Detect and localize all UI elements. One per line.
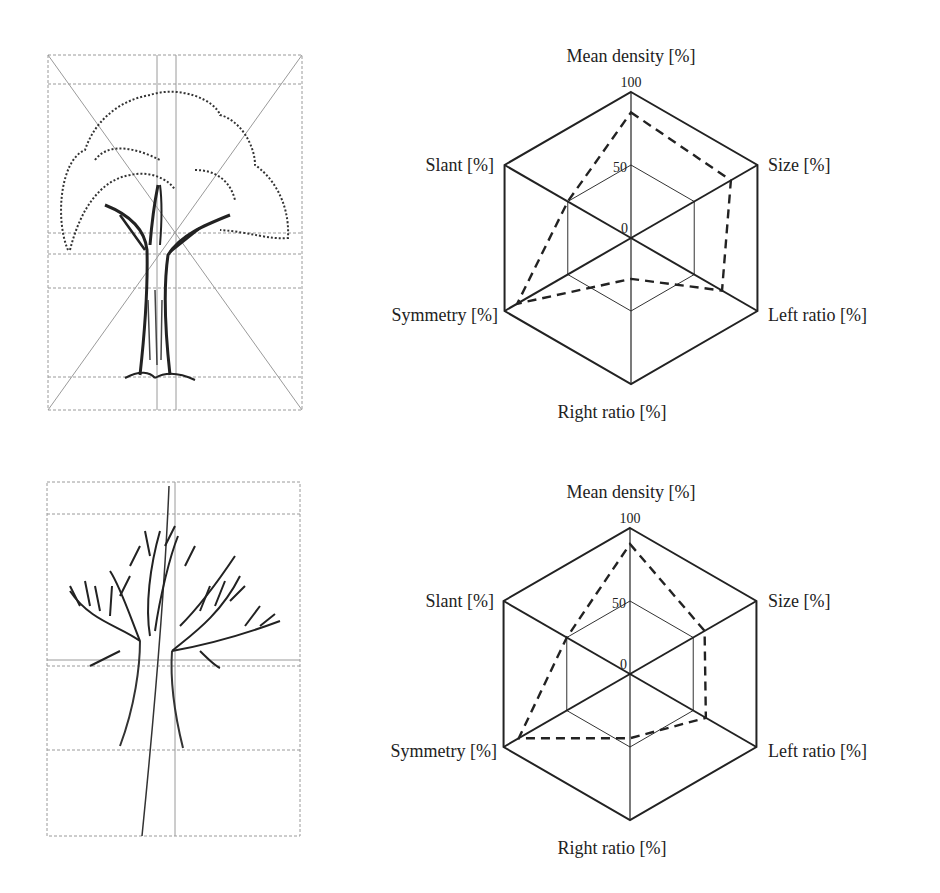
axis-label-mean-density: Mean density [%]: [567, 482, 696, 502]
axis-label-mean-density: Mean density [%]: [567, 46, 696, 66]
series-polygon: [517, 112, 731, 303]
axis-label-slant: Slant [%]: [426, 591, 494, 611]
series-polygon: [519, 544, 706, 738]
panel-tree-2: Mean density [%] 100 50 0 Slant [%] Size…: [0, 436, 940, 876]
tick-label-50: 50: [612, 596, 626, 611]
tick-label-100: 100: [620, 511, 641, 526]
axis-label-slant: Slant [%]: [426, 155, 494, 175]
axis-label-left-ratio: Left ratio [%]: [768, 741, 867, 761]
panel-tree-1: Mean density [%] 100 50 0 Slant [%] Size…: [0, 0, 940, 440]
tick-label-50: 50: [613, 160, 627, 175]
axis-label-left-ratio: Left ratio [%]: [768, 305, 867, 325]
axis-label-right-ratio: Right ratio [%]: [558, 838, 667, 858]
radar-chart-2: Mean density [%] 100 50 0 Slant [%] Size…: [0, 436, 940, 876]
axis-label-right-ratio: Right ratio [%]: [558, 402, 667, 422]
axis-label-size: Size [%]: [768, 591, 830, 611]
tick-label-0: 0: [621, 221, 628, 236]
axis-label-size: Size [%]: [768, 155, 830, 175]
radar-chart-1: Mean density [%] 100 50 0 Slant [%] Size…: [0, 0, 940, 440]
axis-label-symmetry: Symmetry [%]: [392, 305, 498, 325]
tick-label-100: 100: [621, 75, 642, 90]
tick-label-0: 0: [620, 657, 627, 672]
axis-label-symmetry: Symmetry [%]: [391, 741, 497, 761]
